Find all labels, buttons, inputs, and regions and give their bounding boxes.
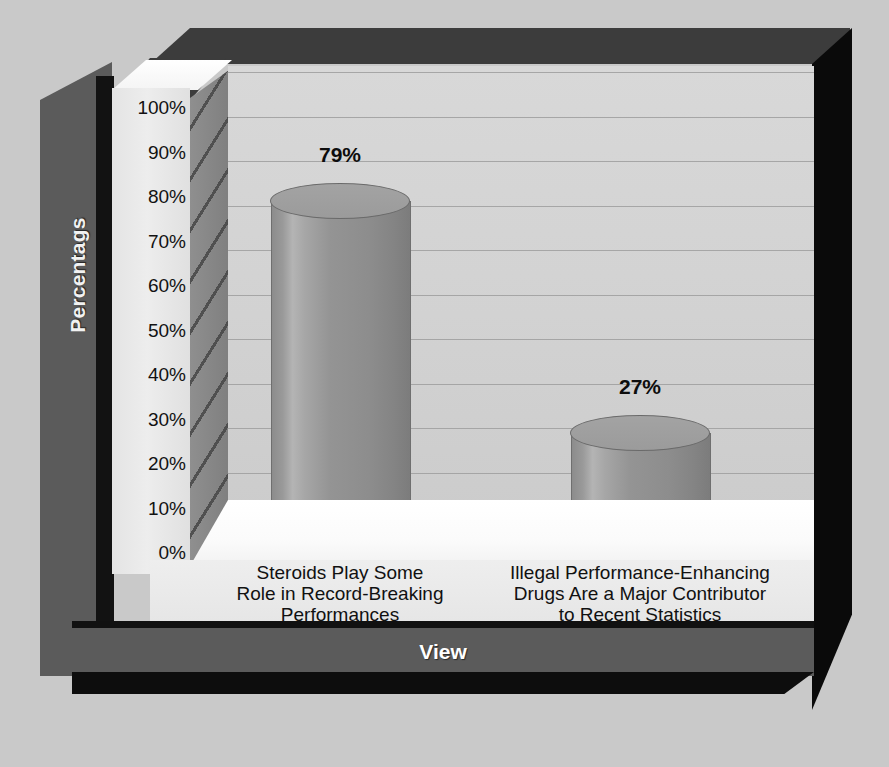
bar-value-label: 27% [619, 375, 661, 399]
bar-top-cap [570, 415, 710, 451]
gridline [228, 161, 814, 162]
y-tick-label: 60% [114, 275, 186, 297]
gridline [228, 72, 814, 73]
x-category-label-line: Illegal Performance-Enhancing [475, 562, 805, 583]
frame-bottom-edge [72, 672, 814, 694]
bar-value-label: 79% [319, 143, 361, 167]
y-tick-label: 90% [114, 142, 186, 164]
x-category-label-line: Steroids Play Some [215, 562, 465, 583]
x-category-label: Steroids Play SomeRole in Record-Breakin… [215, 562, 465, 625]
bar-top-cap [270, 183, 410, 219]
x-category-label: Illegal Performance-EnhancingDrugs Are a… [475, 562, 805, 625]
y-axis-title: Percentags [58, 205, 98, 345]
y-tick-label: 100% [114, 97, 186, 119]
y-tick-label: 30% [114, 409, 186, 431]
y-tick-label: 70% [114, 231, 186, 253]
frame-right-edge [812, 28, 852, 710]
plot-side-wall [190, 68, 232, 574]
chart-figure: Percentags 0%10%20%30%40%50%60%70%80%90%… [0, 0, 889, 767]
y-tick-label: 40% [114, 364, 186, 386]
x-category-label-line: Role in Record-Breaking [215, 583, 465, 604]
frame-top-bevel [150, 28, 850, 64]
x-axis-title: View [72, 628, 814, 676]
y-tick-label: 10% [114, 498, 186, 520]
y-tick-label: 20% [114, 453, 186, 475]
y-axis-tick-labels: 0%10%20%30%40%50%60%70%80%90%100% [112, 88, 190, 574]
y-tick-label: 80% [114, 186, 186, 208]
plot-floor [190, 500, 814, 566]
x-axis-category-labels: Steroids Play SomeRole in Record-Breakin… [150, 560, 814, 622]
gridline [228, 117, 814, 118]
x-category-label-line: Drugs Are a Major Contributor [475, 583, 805, 604]
y-tick-label: 50% [114, 320, 186, 342]
